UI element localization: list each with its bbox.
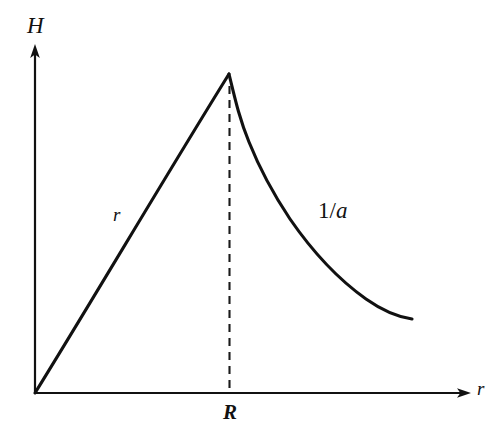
decay-label-denominator: a (336, 198, 348, 223)
decay-label-numerator: 1 (318, 198, 330, 223)
figure-canvas: H r r 1/a R (0, 0, 503, 443)
plot-area (0, 0, 503, 443)
x-axis-label: r (477, 379, 484, 398)
curve-rising-linear (35, 74, 229, 393)
x-axis-tick-label-R: R (223, 402, 237, 423)
annotation-rising-branch-r: r (113, 205, 120, 224)
curve-decay-inverse (229, 74, 412, 319)
annotation-decay-branch-one-over-a: 1/a (318, 199, 347, 222)
y-axis-label: H (27, 14, 44, 37)
